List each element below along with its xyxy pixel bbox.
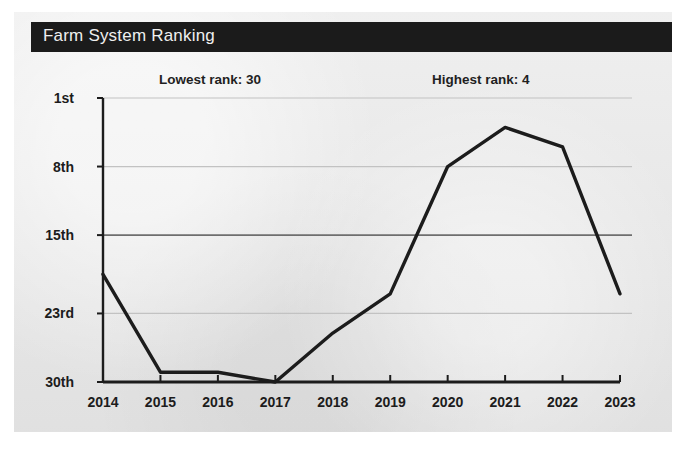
x-axis-tick-label: 2015 (145, 394, 176, 410)
chart-plot-area: Lowest rank: 30 Highest rank: 4 1st8th15… (14, 12, 672, 432)
gridlines (103, 98, 632, 313)
x-axis-tick-label: 2019 (375, 394, 406, 410)
x-axis-tick-label: 2016 (202, 394, 233, 410)
x-axis-tick-label: 2022 (547, 394, 578, 410)
x-axis-tick-label: 2020 (432, 394, 463, 410)
x-axis-tick-label: 2014 (87, 394, 118, 410)
x-axis-tick-label: 2017 (260, 394, 291, 410)
x-axis-tick-label: 2023 (604, 394, 635, 410)
line-chart-svg (14, 12, 672, 432)
data-line-series (103, 127, 620, 382)
x-axis-tick-label: 2018 (317, 394, 348, 410)
x-axis-tick-label: 2021 (490, 394, 521, 410)
chart-card: Farm System Ranking Lowest rank: 30 High… (14, 12, 672, 432)
